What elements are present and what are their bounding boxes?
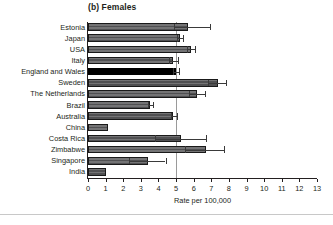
plot-area: EstoniaJapanUSAItalyEngland and WalesSwe… <box>88 22 317 178</box>
error-bar-cap-high <box>205 91 206 98</box>
chart-figure: (b) Females EstoniaJapanUSAItalyEngland … <box>0 0 333 225</box>
bar-row-label: Singapore <box>51 158 85 165</box>
x-axis-tick-label: 3 <box>139 184 143 193</box>
bar-row-label: USA <box>70 46 85 53</box>
x-axis-tick <box>282 179 283 182</box>
x-axis-tick <box>194 179 195 182</box>
x-axis-tick-label: 11 <box>278 184 286 193</box>
bar-row-label: The Netherlands <box>30 91 85 98</box>
error-bar-cap-high <box>178 57 179 64</box>
x-axis-tick-label: 7 <box>209 184 213 193</box>
bar-row-label: Brazil <box>67 102 85 109</box>
x-axis-tick <box>158 179 159 182</box>
bar-row: England and Wales <box>88 67 317 78</box>
bar-row-label: England and Wales <box>21 68 85 75</box>
error-bar <box>185 150 224 151</box>
bar <box>88 34 180 42</box>
error-bar <box>155 139 206 140</box>
error-bar-cap-high <box>166 158 167 165</box>
x-axis-tick <box>176 179 177 182</box>
x-axis-tick-label: 0 <box>86 184 90 193</box>
bar-row: Italy <box>88 55 317 66</box>
x-axis-tick-label: 8 <box>227 184 231 193</box>
bar-row: Brazil <box>88 100 317 111</box>
x-axis-tick-label: 10 <box>260 184 268 193</box>
x-axis-tick <box>123 179 124 182</box>
bar-row-label: Zimbabwe <box>51 146 85 153</box>
x-axis-tick <box>299 179 300 182</box>
bar-row-label: Australia <box>56 113 85 120</box>
bar <box>88 101 150 109</box>
error-bar <box>129 161 166 162</box>
error-bar-cap-high <box>224 146 225 153</box>
bar <box>88 124 108 132</box>
error-bar <box>189 94 205 95</box>
x-axis-tick-label: 1 <box>104 184 108 193</box>
x-axis-tick <box>317 179 318 182</box>
error-bar-cap-low <box>155 135 156 142</box>
error-bar-cap-low <box>189 91 190 98</box>
error-bar-cap-low <box>148 102 149 109</box>
error-bar-cap-low <box>208 80 209 87</box>
error-bar-cap-high <box>153 102 154 109</box>
bar <box>88 23 188 31</box>
bar-row: Costa Rica <box>88 133 317 144</box>
bar-row: Estonia <box>88 22 317 33</box>
x-axis-tick-label: 4 <box>156 184 160 193</box>
error-bar-cap-low <box>174 24 175 31</box>
bar-row-label: Sweden <box>58 80 85 87</box>
chart-title: (b) Females <box>88 2 136 12</box>
error-bar-cap-high <box>206 135 207 142</box>
bar-row-label: China <box>66 124 85 131</box>
bar <box>88 68 176 76</box>
x-axis-tick <box>229 179 230 182</box>
error-bar-cap-high <box>195 46 196 53</box>
error-bar <box>169 61 178 62</box>
x-axis-tick <box>247 179 248 182</box>
bar <box>88 46 191 54</box>
x-axis-tick <box>106 179 107 182</box>
error-bar-cap-low <box>177 35 178 42</box>
error-bar-cap-high <box>210 24 211 31</box>
error-bar-cap-high <box>183 35 184 42</box>
error-bar <box>187 49 195 50</box>
bar <box>88 79 218 87</box>
error-bar-cap-low <box>185 146 186 153</box>
bar-row: Zimbabwe <box>88 145 317 156</box>
error-bar <box>174 27 209 28</box>
bar <box>88 57 173 65</box>
bar-row: India <box>88 167 317 178</box>
x-axis-tick-label: 2 <box>121 184 125 193</box>
bar-row: The Netherlands <box>88 89 317 100</box>
x-axis-tick <box>141 179 142 182</box>
x-axis-tick-label: 12 <box>295 184 303 193</box>
bar-row: Singapore <box>88 156 317 167</box>
bar <box>88 90 197 98</box>
x-axis-tick-label: 9 <box>244 184 248 193</box>
bar-row-label: Japan <box>65 35 85 42</box>
x-axis-tick-label: 6 <box>192 184 196 193</box>
error-bar-cap-low <box>169 57 170 64</box>
bar-row: Sweden <box>88 78 317 89</box>
bar-row: China <box>88 122 317 133</box>
error-bar-cap-low <box>129 158 130 165</box>
bar-row: Japan <box>88 33 317 44</box>
bar-row-label: Costa Rica <box>49 135 85 142</box>
x-axis-tick-label: 5 <box>174 184 178 193</box>
error-bar-cap-high <box>226 80 227 87</box>
x-axis-tick <box>264 179 265 182</box>
x-axis-tick <box>211 179 212 182</box>
error-bar <box>208 83 226 84</box>
bar-row: Australia <box>88 111 317 122</box>
bar-row: USA <box>88 44 317 55</box>
x-axis-title: Rate per 100,000 <box>88 196 317 205</box>
bar <box>88 168 106 176</box>
error-bar-cap-low <box>173 68 174 75</box>
bar-row-label: Italy <box>71 57 85 64</box>
x-axis-tick-label: 13 <box>313 184 321 193</box>
error-bar-cap-low <box>171 113 172 120</box>
error-bar-cap-low <box>187 46 188 53</box>
x-axis-tick <box>88 179 89 182</box>
bar-row-label: Estonia <box>60 24 85 31</box>
figure-bottom-rule <box>0 214 333 215</box>
